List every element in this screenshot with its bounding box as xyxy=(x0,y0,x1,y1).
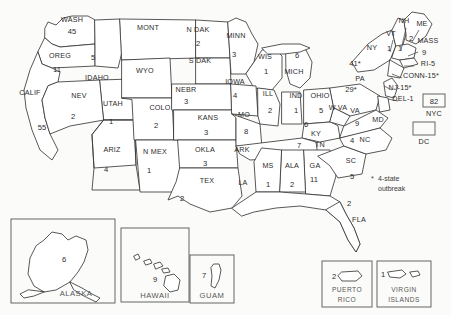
inset-value-puerto-rico: 2 xyxy=(332,272,336,281)
inset-value-alaska: 6 xyxy=(62,255,66,264)
state-value-ill: 2 xyxy=(268,106,272,115)
legend: * 4-state outbreak xyxy=(371,175,406,192)
state-label-mont: MONT xyxy=(137,23,159,32)
state-value-ndak: 2 xyxy=(196,39,200,48)
inset-virgin-islands: 1 VIRGIN ISLANDS xyxy=(377,261,431,307)
state-label-oreg: OREG xyxy=(49,51,71,60)
state-label-ga: GA xyxy=(310,161,321,170)
inset-label-alaska: ALASKA xyxy=(60,289,93,298)
state-value-vt: 1 xyxy=(387,44,391,53)
state-label-utah: UTAH xyxy=(103,99,123,108)
state-label-mo: MO xyxy=(238,110,250,119)
state-label-vt: VT xyxy=(386,29,396,38)
inset-label-virgin-islands-line2: ISLANDS xyxy=(388,296,420,303)
inset-puerto-rico: 2 PUERTO RICO xyxy=(322,261,372,307)
state-value-idaho: 5 xyxy=(91,53,95,62)
state-label-me: ME xyxy=(416,19,427,28)
state-value-colo: 2 xyxy=(154,121,158,130)
state-value-mass: 9 xyxy=(422,48,426,57)
inset-value-guam: 7 xyxy=(202,271,206,280)
inset-label-guam: GUAM xyxy=(200,291,225,300)
state-label-tn: TN xyxy=(315,140,325,149)
state-value-sc: 5 xyxy=(350,172,354,181)
state-value-oreg: 11 xyxy=(53,65,61,74)
state-value-fla: 2 xyxy=(347,199,351,208)
state-value-nmex: 1 xyxy=(147,166,151,175)
city-box-dc xyxy=(413,122,435,135)
state-label-nh: NH xyxy=(399,16,410,25)
state-value-ariz: 4 xyxy=(104,165,108,174)
state-value-nc: 4 xyxy=(350,136,354,145)
state-value-ga: 11 xyxy=(310,175,318,184)
state-label-ri: RI-5 xyxy=(421,59,435,68)
state-value-minn: 3 xyxy=(232,50,236,59)
inset-label-puerto-rico-line1: PUERTO xyxy=(332,286,362,293)
state-label-kans: KANS xyxy=(198,113,218,122)
legend-text-line2: outbreak xyxy=(378,185,406,192)
state-label-minn: MINN xyxy=(226,31,245,40)
state-label-ms: MS xyxy=(262,161,273,170)
state-value-ms: 1 xyxy=(266,180,270,189)
boxed-city-group: 82NYCDC xyxy=(413,94,445,146)
state-label-nmex: N MEX xyxy=(143,147,167,156)
state-value-pa: 29* xyxy=(345,85,356,94)
state-value-wis: 1 xyxy=(264,67,268,76)
city-value-nyc: 82 xyxy=(430,97,438,106)
city-label-dc: DC xyxy=(419,137,430,146)
state-label-ala: ALA xyxy=(285,161,299,170)
state-label-nev: NEV xyxy=(71,91,86,100)
legend-text-line1: 4-state xyxy=(378,175,400,182)
inset-value-hawaii: 9 xyxy=(153,275,157,284)
state-value-calif: 55 xyxy=(38,123,46,132)
state-label-colo: COLO xyxy=(149,103,170,112)
state-label-nc: NC xyxy=(360,135,371,144)
state-value-ind: 1 xyxy=(294,106,298,115)
state-value-ky: 6 xyxy=(304,120,308,129)
map-figure: WASH45OREG11IDAHO5MONTN DAK2S DAKMINN3WI… xyxy=(0,0,451,315)
state-label-ndak: N DAK xyxy=(187,25,210,34)
state-label-fla: FLA xyxy=(352,215,366,224)
state-label-sdak: S DAK xyxy=(189,56,212,65)
us-case-map: WASH45OREG11IDAHO5MONTN DAK2S DAKMINN3WI… xyxy=(0,0,451,315)
state-label-wash: WASH xyxy=(61,15,83,24)
inset-value-virgin-islands: 1 xyxy=(381,270,385,279)
state-label-wis: WIS xyxy=(258,52,272,61)
state-label-ind: IND xyxy=(290,91,303,100)
state-value-nh: 1 xyxy=(398,44,402,53)
state-value-va: 9 xyxy=(355,119,359,128)
state-label-mich: MICH xyxy=(284,67,303,76)
state-label-la: LA xyxy=(238,178,247,187)
state-label-tex: TEX xyxy=(200,176,215,185)
state-label-del: DEL-1 xyxy=(392,94,413,103)
inset-hawaii: 9 HAWAII xyxy=(121,228,189,302)
state-value-mich: 6 xyxy=(295,51,299,60)
state-value-ny: 41* xyxy=(349,59,360,68)
state-label-calif: CALIF xyxy=(19,88,41,97)
legend-marker: * xyxy=(371,175,374,182)
state-value-tn: 7 xyxy=(297,141,301,150)
state-label-mass: MASS xyxy=(417,36,438,45)
inset-label-hawaii: HAWAII xyxy=(140,291,169,300)
state-label-wva: W VA xyxy=(329,103,348,112)
state-label-nebr: NEBR xyxy=(176,85,197,94)
inset-label-virgin-islands-line1: VIRGIN xyxy=(391,286,417,293)
state-value-mo: 8 xyxy=(244,127,248,136)
state-value-ohio: 5 xyxy=(319,106,323,115)
state-value-tex: 2 xyxy=(180,194,184,203)
state-label-idaho: IDAHO xyxy=(85,73,109,82)
city-label-nyc: NYC xyxy=(426,109,442,118)
state-label-okla: OKLA xyxy=(195,145,215,154)
state-value-me: 2 xyxy=(409,34,413,43)
state-value-kans: 3 xyxy=(204,128,208,137)
state-label-md: MD xyxy=(372,115,384,124)
state-label-ill: ILL xyxy=(263,89,274,98)
state-label-ariz: ARIZ xyxy=(103,145,121,154)
state-label-wyo: WYO xyxy=(136,66,154,75)
state-value-nev: 2 xyxy=(71,112,75,121)
state-label-ark: ARK xyxy=(234,145,249,154)
state-label-ohio: OHIO xyxy=(310,91,329,100)
state-value-iowa: 4 xyxy=(233,91,237,100)
inset-alaska: 6 ALASKA xyxy=(11,219,115,303)
inset-label-puerto-rico-line2: RICO xyxy=(338,296,356,303)
state-value-wash: 45 xyxy=(68,27,76,36)
